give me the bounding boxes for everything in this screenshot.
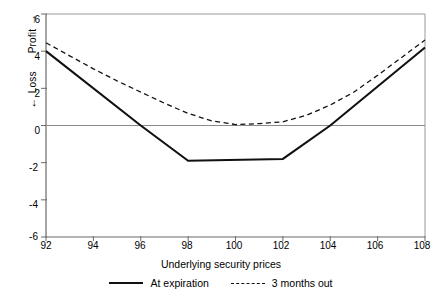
- series-line-3-months-out: [46, 40, 425, 125]
- series-line-at-expiration: [46, 47, 425, 160]
- legend-label-3-months-out: 3 months out: [272, 277, 333, 289]
- plot-area: [0, 0, 442, 300]
- x-axis-title: Underlying security prices: [0, 258, 442, 270]
- legend-item-at-expiration: At expiration: [109, 277, 208, 289]
- chart-legend: At expiration 3 months out: [0, 277, 442, 289]
- legend-label-at-expiration: At expiration: [150, 277, 208, 289]
- legend-swatch-dashed: [231, 283, 265, 284]
- legend-item-3-months-out: 3 months out: [231, 277, 333, 289]
- chart-figure: ← Loss Profit → 6 4 2 0 -2 -4 -6 92 94 9…: [0, 0, 442, 300]
- legend-swatch-solid: [109, 282, 143, 284]
